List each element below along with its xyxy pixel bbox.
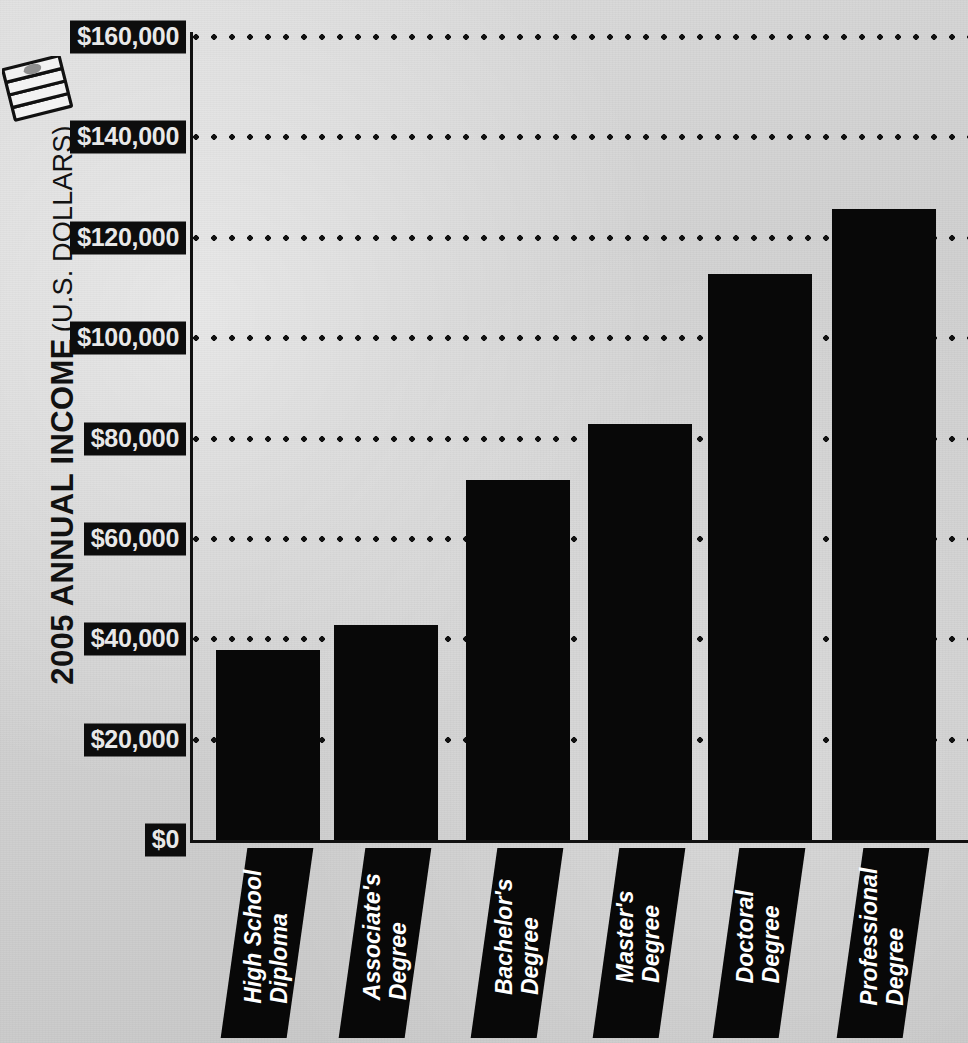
x-axis-category-tag: Bachelor'sDegree: [471, 848, 564, 1038]
x-axis-category-label: Associate'sDegree: [359, 873, 411, 1000]
x-axis-category-label: Bachelor'sDegree: [491, 878, 543, 995]
bar: [708, 274, 812, 841]
y-axis-tick-label: $60,000: [84, 522, 186, 555]
y-axis-tick-label: $0: [145, 824, 186, 857]
x-axis-category-tag: ProfessionalDegree: [837, 848, 930, 1038]
y-axis-tick-label: $160,000: [70, 21, 186, 54]
bar: [588, 424, 692, 841]
x-axis-category-label: DoctoralDegree: [733, 890, 785, 983]
y-axis-tick-label: $40,000: [84, 623, 186, 656]
y-axis-line: [190, 32, 193, 842]
x-axis-category-tag: Master'sDegree: [593, 848, 686, 1038]
x-axis-category-label: High SchoolDiploma: [241, 869, 293, 1003]
x-axis-category-label: ProfessionalDegree: [857, 867, 909, 1005]
bar: [832, 209, 936, 841]
chart-page: 2005 ANNUAL INCOME (U.S. DOLLARS) $0$20,…: [0, 0, 968, 1043]
y-axis-tick-labels: $0$20,000$40,000$60,000$80,000$100,000$1…: [0, 0, 186, 843]
x-axis-category-tag-inner: ProfessionalDegree: [850, 848, 916, 1038]
gridline: [193, 134, 968, 140]
x-axis-category-tag-inner: Associate'sDegree: [352, 848, 418, 1038]
plot-area: [190, 0, 968, 843]
y-axis-tick-label: $80,000: [84, 422, 186, 455]
gridline: [193, 34, 968, 40]
bar: [216, 650, 320, 841]
y-axis-tick-label: $100,000: [70, 322, 186, 355]
x-axis-category-label: Master'sDegree: [613, 890, 665, 982]
x-axis-category-tag-inner: Bachelor'sDegree: [484, 848, 550, 1038]
x-axis-category-tag: High SchoolDiploma: [221, 848, 314, 1038]
x-axis-category-tag-inner: High SchoolDiploma: [234, 848, 300, 1038]
x-axis-category-tag: DoctoralDegree: [713, 848, 806, 1038]
y-axis-tick-label: $120,000: [70, 221, 186, 254]
x-axis-line: [190, 840, 968, 843]
y-axis-tick-label: $20,000: [84, 723, 186, 756]
y-axis-tick-label: $140,000: [70, 121, 186, 154]
bar: [334, 625, 438, 841]
x-axis-category-tag-inner: Master'sDegree: [606, 848, 672, 1038]
x-axis-category-tag-inner: DoctoralDegree: [726, 848, 792, 1038]
bar: [466, 480, 570, 841]
x-axis-category-tag: Associate'sDegree: [339, 848, 432, 1038]
